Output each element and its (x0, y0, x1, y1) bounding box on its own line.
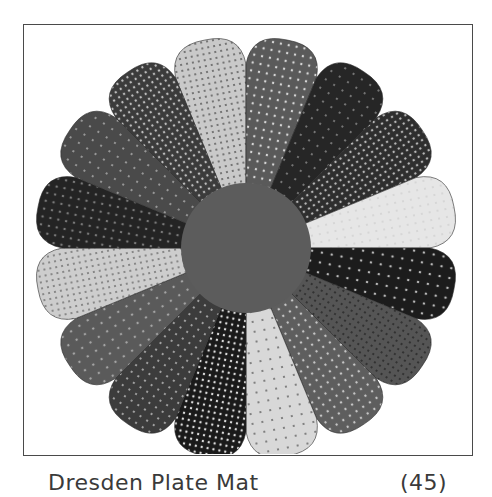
caption-title: Dresden Plate Mat (48, 470, 259, 495)
figure-caption: Dresden Plate Mat (45) (0, 470, 492, 497)
caption-number: (45) (400, 470, 447, 495)
center-circle (181, 183, 311, 313)
